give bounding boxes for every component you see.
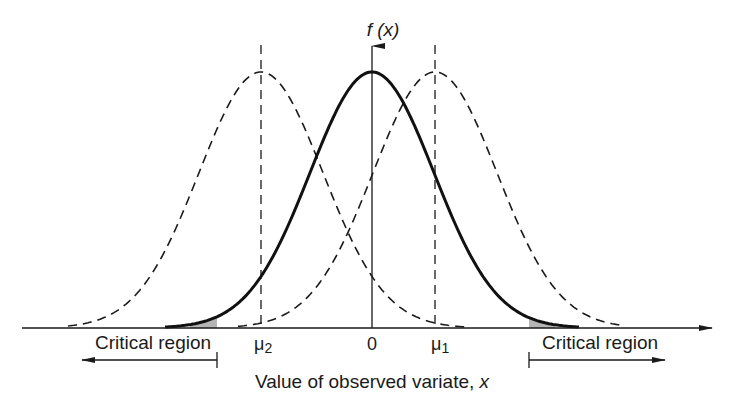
alternative-distribution-mu2-curve	[68, 72, 470, 327]
hypothesis-test-diagram: f (x) μ2 0 μ1 Critical region Critical r…	[0, 0, 738, 408]
tick-label-mu2: μ2	[254, 334, 272, 356]
critical-region-right-label: Critical region	[542, 332, 658, 353]
critical-region-left-label: Critical region	[95, 332, 211, 353]
tick-label-zero: 0	[367, 334, 377, 354]
y-axis-label: f (x)	[367, 19, 400, 40]
x-axis-label: Value of observed variate, x	[255, 371, 491, 392]
tick-label-mu1: μ1	[431, 334, 449, 356]
